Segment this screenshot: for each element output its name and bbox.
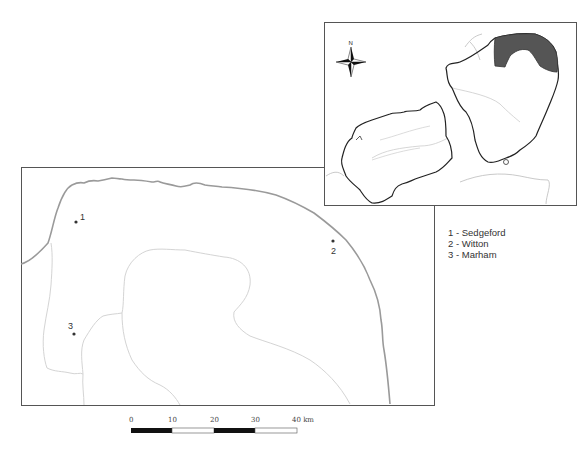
legend: 1 - Sedgeford 2 - Witton 3 - Marham (448, 227, 506, 260)
scale-tick-40: 40 km (292, 416, 314, 424)
map-figure: 1 2 3 (0, 0, 585, 452)
legend-item-marham: 3 - Marham (448, 249, 506, 260)
site-label: 1 (80, 212, 85, 222)
scale-bar: 0 10 20 30 40 km (129, 416, 314, 433)
scale-tick-20: 20 (210, 416, 219, 424)
site-label: 2 (331, 246, 336, 256)
scale-tick-10: 10 (168, 416, 177, 424)
legend-item-sedgeford: 1 - Sedgeford (448, 227, 506, 238)
site-label: 3 (68, 321, 73, 331)
inset-map: N (325, 23, 577, 206)
scale-tick-0: 0 (129, 416, 133, 424)
north-label: N (349, 40, 353, 46)
legend-item-witton: 2 - Witton (448, 238, 506, 249)
scale-tick-30: 30 (251, 416, 260, 424)
